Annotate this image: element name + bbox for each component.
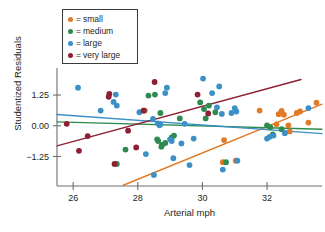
data-point-large — [220, 167, 226, 173]
data-point-small — [257, 108, 263, 114]
data-point-very-large — [125, 128, 131, 134]
data-point-very-large — [152, 79, 158, 85]
data-point-small — [297, 109, 303, 115]
data-point-medium — [267, 124, 273, 130]
legend-dot-large — [68, 41, 73, 46]
data-point-large — [150, 116, 156, 122]
data-point-small — [281, 112, 287, 118]
legend-dot-very-large — [68, 53, 73, 58]
legend-equals-large: = — [76, 37, 81, 49]
data-point-large — [233, 109, 239, 115]
legend-label-large: large — [83, 37, 102, 49]
x-tick-label: 30 — [197, 193, 207, 203]
data-point-medium — [123, 147, 129, 153]
data-point-very-large — [205, 111, 211, 117]
data-point-small — [306, 120, 312, 126]
data-point-large — [191, 136, 197, 142]
legend-label-very-large: very large — [83, 49, 120, 61]
data-point-medium — [201, 106, 207, 112]
data-point-very-large — [133, 145, 139, 151]
data-point-large — [113, 92, 119, 98]
data-point-large — [158, 121, 164, 127]
data-point-large — [200, 76, 206, 82]
data-point-small — [285, 122, 291, 128]
legend-dot-small — [68, 17, 73, 22]
legend-label-small: small — [83, 13, 103, 25]
data-point-large — [143, 151, 149, 157]
legend-item-small: = small — [68, 13, 133, 25]
data-point-medium — [197, 100, 203, 106]
data-point-very-large — [141, 108, 147, 114]
data-point-large — [169, 138, 175, 144]
data-point-medium — [206, 103, 212, 109]
data-point-medium — [212, 109, 218, 115]
data-point-very-large — [106, 91, 112, 97]
legend-dot-medium — [68, 29, 73, 34]
data-point-very-large — [112, 161, 118, 167]
y-axis-title: Studentized Residuals — [12, 24, 23, 144]
x-tick-label: 28 — [133, 193, 143, 203]
data-point-very-large — [195, 92, 201, 98]
data-point-very-large — [64, 121, 70, 127]
data-point-small — [314, 100, 320, 106]
legend-equals-very-large: = — [76, 49, 81, 61]
legend-equals-medium: = — [76, 25, 81, 37]
data-point-large — [214, 104, 220, 110]
data-point-large — [209, 90, 215, 96]
x-tick-label: 32 — [262, 193, 272, 203]
data-point-large — [162, 90, 168, 96]
x-tick-label: 26 — [68, 193, 78, 203]
data-point-large — [151, 172, 157, 178]
data-point-medium — [158, 110, 164, 116]
legend: = small = medium = large = very large — [62, 9, 138, 64]
y-tick-label: 1.25 — [31, 90, 49, 100]
legend-item-medium: = medium — [68, 25, 133, 37]
data-point-large — [114, 103, 120, 109]
legend-label-medium: medium — [83, 25, 113, 37]
data-point-large — [216, 84, 222, 90]
data-point-small — [221, 137, 227, 143]
data-point-large — [219, 111, 225, 117]
data-point-large — [282, 130, 288, 136]
data-point-large — [306, 105, 312, 111]
data-point-large — [75, 85, 81, 91]
legend-equals-small: = — [76, 13, 81, 25]
y-tick-label: −1.25 — [26, 152, 49, 162]
data-point-medium — [146, 93, 152, 99]
data-point-medium — [177, 116, 183, 122]
legend-item-large: = large — [68, 37, 133, 49]
data-point-very-large — [76, 148, 82, 154]
legend-item-very-large: = very large — [68, 49, 133, 61]
data-point-large — [164, 85, 170, 91]
x-axis-title: Arterial mph — [164, 207, 215, 218]
data-point-large — [182, 121, 188, 127]
data-point-large — [234, 158, 240, 164]
data-point-small — [274, 121, 280, 127]
data-point-large — [179, 141, 185, 147]
data-point-large — [187, 162, 193, 168]
data-point-large — [271, 133, 277, 139]
data-point-medium — [162, 140, 168, 146]
data-point-medium — [152, 92, 158, 98]
data-point-medium — [203, 116, 209, 122]
data-point-medium — [223, 159, 229, 165]
y-tick-label: 0.00 — [31, 121, 49, 131]
data-point-layer — [64, 76, 320, 178]
trend-line-very-large — [57, 80, 301, 146]
chart-container: 262830321.250.00−1.25Arterial mph = smal… — [0, 0, 325, 232]
data-point-large — [98, 108, 104, 114]
scatter-plot-svg: 262830321.250.00−1.25Arterial mph — [0, 0, 325, 232]
data-point-large — [170, 155, 176, 161]
data-point-very-large — [85, 133, 91, 139]
